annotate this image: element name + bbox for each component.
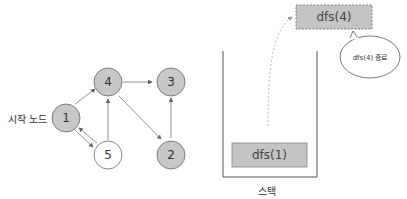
- start-node-label: 시작 노드: [8, 111, 47, 126]
- edge-4-2: [119, 96, 161, 139]
- svg-text:4: 4: [104, 75, 112, 89]
- node-4: 4: [94, 68, 122, 96]
- edge-5-1: [79, 128, 97, 143]
- node-2: 2: [157, 141, 185, 169]
- svg-text:1: 1: [62, 111, 70, 125]
- callout-bubble: dfs(4) 종료: [340, 31, 400, 78]
- svg-text:dfs(4): dfs(4): [316, 10, 351, 24]
- svg-text:dfs(4) 종료: dfs(4) 종료: [353, 54, 389, 62]
- pop-path: [268, 17, 292, 126]
- edge-1-4: [75, 89, 95, 104]
- dfs-diagram: 1 4 3 5 2 dfs(1) dfs(4) dfs(4) 종료: [0, 0, 407, 199]
- svg-text:dfs(1): dfs(1): [252, 148, 287, 162]
- svg-text:2: 2: [167, 148, 175, 162]
- stack-label: 스택: [258, 183, 276, 198]
- stack-frame-dfs1: dfs(1): [232, 143, 307, 167]
- node-5: 5: [94, 141, 122, 169]
- popped-frame-dfs4: dfs(4): [296, 5, 372, 29]
- svg-text:3: 3: [167, 75, 175, 89]
- graph-edges: [74, 82, 171, 147]
- node-3: 3: [157, 68, 185, 96]
- node-1: 1: [52, 104, 80, 132]
- svg-text:5: 5: [104, 148, 112, 162]
